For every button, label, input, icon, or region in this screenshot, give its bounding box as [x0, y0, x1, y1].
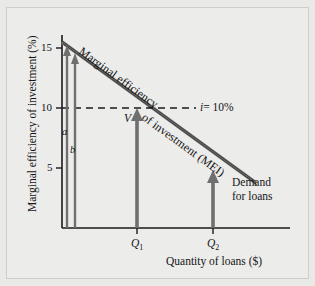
bracket-b-label: b: [70, 145, 75, 156]
y-tick-label-5: 5: [47, 162, 53, 173]
y-tick-label-15: 15: [41, 42, 52, 53]
demand-for-loans-label: Demand for loans: [232, 176, 273, 203]
y-axis-title: Marginal efficiency of investment (%): [26, 36, 38, 213]
interest-rate-label: i= 10%: [200, 102, 234, 114]
q1-subscript: 1: [139, 243, 143, 252]
x-tick-label-q2: Q2: [207, 238, 219, 252]
q2-subscript: 2: [215, 243, 219, 252]
y-tick-label-10: 10: [41, 102, 52, 113]
x-axis-title: Quantity of loans ($): [166, 256, 262, 268]
interest-rate-value: = 10%: [203, 101, 233, 113]
demand-label-line2: for loans: [232, 190, 273, 204]
figure-container: Marginal efficiency of investment (%) 15…: [0, 0, 315, 286]
point-v-label: V: [124, 113, 131, 125]
bracket-a-label: a: [62, 127, 67, 138]
demand-label-line1: Demand: [232, 176, 273, 190]
x-tick-label-q1: Q1: [131, 238, 143, 252]
